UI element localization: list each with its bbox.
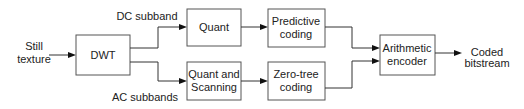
edge-predictive-arith xyxy=(325,27,380,51)
edge-input-dwt xyxy=(49,52,76,58)
svg-text:coding: coding xyxy=(280,28,312,40)
edge-quant-predictive xyxy=(241,24,268,30)
svg-text:encoder: encoder xyxy=(387,55,427,67)
edge-zerotree-arith xyxy=(325,58,380,88)
arrowhead-icon xyxy=(179,78,187,84)
arrowhead-icon xyxy=(260,78,268,84)
ac-subbands-label: AC subbands xyxy=(112,91,179,103)
svg-text:bitstream: bitstream xyxy=(464,57,509,69)
input-label: Still texture xyxy=(17,40,51,65)
arrowhead-icon xyxy=(372,45,380,51)
svg-text:coding: coding xyxy=(280,81,312,93)
svg-text:Scanning: Scanning xyxy=(191,81,237,93)
svg-text:Zero-tree: Zero-tree xyxy=(273,68,318,80)
dc-subband-label: DC subband xyxy=(116,10,177,22)
arrowhead-icon xyxy=(179,24,187,30)
edge-dwt-quantscan xyxy=(130,62,187,84)
dwt-block: DWT xyxy=(76,35,130,75)
edge-arith-output xyxy=(435,50,462,56)
output-label: Coded bitstream xyxy=(464,46,509,69)
predictive-coding-block: Predictive coding xyxy=(268,9,325,47)
svg-text:Predictive: Predictive xyxy=(272,15,320,27)
arrowhead-icon xyxy=(454,50,462,56)
quant-block: Quant xyxy=(187,9,241,46)
zerotree-coding-block: Zero-tree coding xyxy=(268,62,325,100)
svg-text:Arithmetic: Arithmetic xyxy=(383,42,432,54)
edge-quantscan-zerotree xyxy=(241,78,268,84)
svg-text:Quant: Quant xyxy=(199,21,229,33)
block-diagram: Still texture DWT DC subband AC subbands… xyxy=(0,0,524,109)
quant-scanning-block: Quant and Scanning xyxy=(187,62,241,100)
svg-text:DWT: DWT xyxy=(90,49,115,61)
arrowhead-icon xyxy=(68,52,76,58)
arrowhead-icon xyxy=(260,24,268,30)
svg-text:texture: texture xyxy=(17,53,51,65)
svg-text:Quant and: Quant and xyxy=(188,68,239,80)
svg-text:Still: Still xyxy=(25,40,43,52)
arrowhead-icon xyxy=(372,58,380,64)
edge-dwt-quant xyxy=(130,24,187,48)
arithmetic-encoder-block: Arithmetic encoder xyxy=(380,35,435,75)
